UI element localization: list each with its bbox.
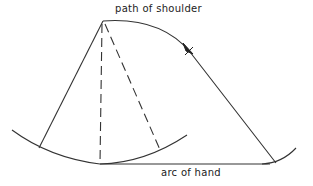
shoulder-path-curve [103, 21, 276, 163]
hand-arc-initial [12, 130, 187, 164]
arm-line-right-dashed [105, 24, 161, 152]
label-arc-of-hand: arc of hand [161, 167, 221, 178]
arm-line-left [39, 21, 103, 148]
pendulum-arm-diagram: path of shoulder arc of hand [0, 0, 313, 186]
arm-line-vertical-dashed [100, 24, 102, 164]
hand-arc-final [262, 148, 296, 164]
label-path-of-shoulder: path of shoulder [115, 3, 203, 14]
diagram-svg: path of shoulder arc of hand [0, 0, 313, 186]
